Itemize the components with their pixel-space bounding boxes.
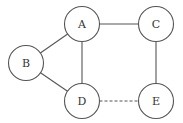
node-c: C (139, 7, 174, 42)
graph-diagram: A B C D E (0, 0, 183, 123)
node-a: A (65, 7, 100, 42)
node-e: E (139, 84, 174, 119)
edge-a-b (40, 34, 67, 53)
node-d: D (65, 84, 100, 119)
node-a-label: A (77, 18, 87, 31)
node-e-label: E (152, 95, 160, 108)
nodes-layer: A B C D E (9, 7, 174, 119)
edge-b-d (40, 73, 67, 91)
node-d-label: D (78, 95, 87, 108)
node-c-label: C (152, 18, 160, 31)
node-b: B (9, 46, 44, 81)
edges-layer (40, 24, 156, 101)
node-b-label: B (22, 57, 30, 70)
